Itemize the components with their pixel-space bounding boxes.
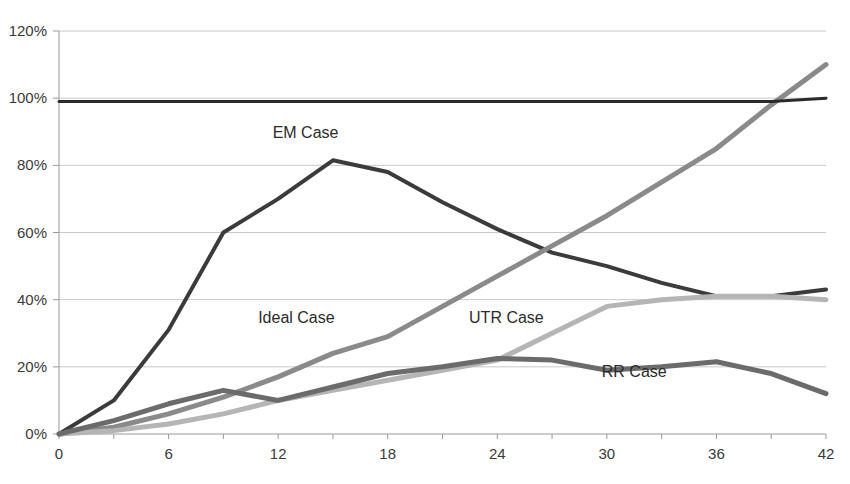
x-axis-tick-label: 24 [489,445,506,462]
y-axis-tick-label: 120% [9,22,47,39]
series-label-rr-case: RR Case [602,363,667,380]
x-axis-tick-label: 0 [55,445,63,462]
y-axis-tick-label: 0% [25,425,47,442]
chart-container: 0%20%40%60%80%100%120% 06121824303642 EM… [0,0,850,484]
x-axis-tick-label: 12 [270,445,287,462]
series-label-ideal-case: Ideal Case [258,309,335,326]
y-axis-tick-label: 20% [17,358,47,375]
series-label-em-case: EM Case [273,124,339,141]
series-label-utr-case: UTR Case [469,309,544,326]
x-axis-tick-label: 18 [379,445,396,462]
x-axis-tick-label: 42 [818,445,835,462]
y-axis-tick-label: 40% [17,291,47,308]
x-axis-tick-label: 30 [599,445,616,462]
x-axis-tick-label: 6 [164,445,172,462]
x-axis-tick-label: 36 [708,445,725,462]
plot-background [0,0,850,484]
y-axis-tick-label: 60% [17,224,47,241]
y-axis-tick-label: 80% [17,156,47,173]
line-chart: 0%20%40%60%80%100%120% 06121824303642 EM… [0,0,850,484]
y-axis-tick-label: 100% [9,89,47,106]
